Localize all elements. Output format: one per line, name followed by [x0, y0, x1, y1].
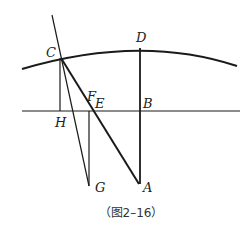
- line-through-C-to-G: [52, 15, 89, 186]
- label-C: C: [46, 45, 56, 60]
- label-B: B: [142, 96, 153, 111]
- label-A: A: [142, 180, 152, 195]
- label-H: H: [54, 115, 67, 130]
- geometry-diagram: C D F E B H G A （图2–16）: [0, 0, 251, 227]
- label-G: G: [95, 180, 105, 195]
- line-CA: [61, 58, 139, 184]
- label-D: D: [135, 30, 147, 45]
- figure-caption: （图2–16）: [99, 206, 164, 220]
- label-E: E: [94, 96, 105, 111]
